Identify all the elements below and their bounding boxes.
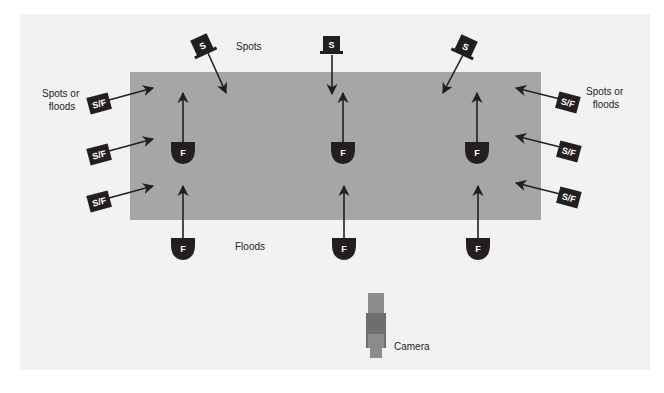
- flood-front-left-label: F: [180, 244, 186, 254]
- flood-in-right-label: F: [474, 148, 480, 158]
- flood-front-center-label: F: [341, 244, 347, 254]
- flood-in-center-label: F: [340, 148, 346, 158]
- flood-front-right-label: F: [475, 244, 481, 254]
- floods-label: Floods: [235, 241, 265, 252]
- spot-center-label: S: [328, 40, 334, 50]
- lighting-diagram: S S S Spots S/F S/F S/F: [0, 0, 664, 393]
- camera-label: Camera: [394, 341, 430, 352]
- flood-in-left-label: F: [180, 148, 186, 158]
- spots-label: Spots: [236, 41, 262, 52]
